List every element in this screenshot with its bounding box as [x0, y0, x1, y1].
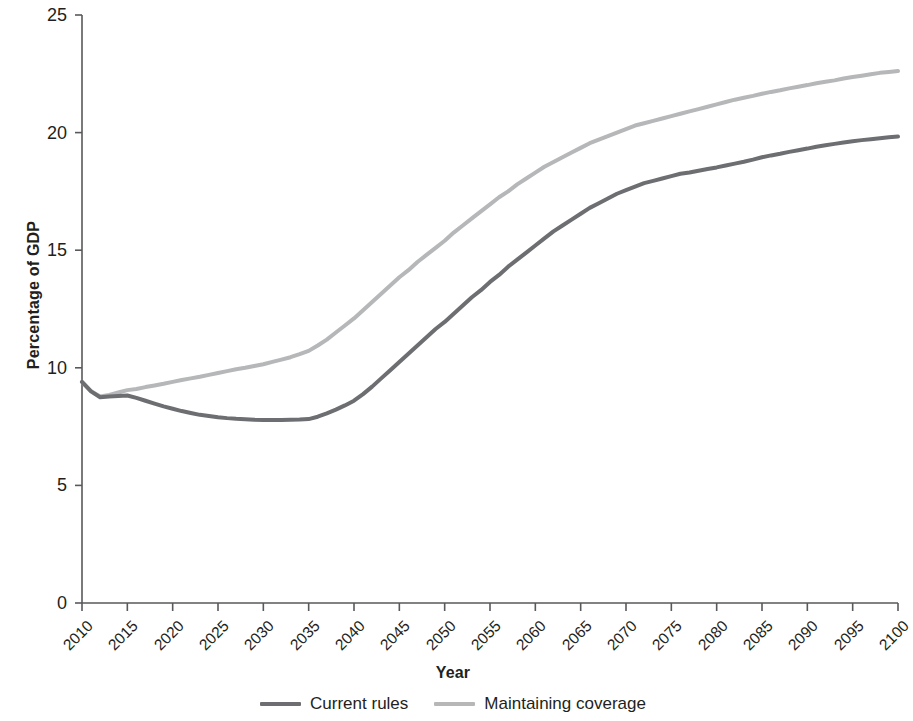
legend-item: Current rules	[260, 694, 408, 714]
legend-item: Maintaining coverage	[434, 694, 646, 714]
y-tick-label: 5	[15, 476, 67, 494]
x-axis-title: Year	[0, 664, 906, 682]
legend-line-swatch-icon	[260, 702, 301, 706]
y-tick-label: 25	[15, 6, 67, 24]
y-tick-label: 10	[15, 359, 67, 377]
series-line-maintaining-coverage	[82, 71, 898, 397]
legend-label: Current rules	[310, 694, 408, 714]
y-tick-label: 15	[15, 241, 67, 259]
legend-line-swatch-icon	[434, 702, 475, 706]
y-tick-label: 0	[15, 594, 67, 612]
y-tick-label: 20	[15, 124, 67, 142]
legend-label: Maintaining coverage	[484, 694, 646, 714]
chart-legend: Current rulesMaintaining coverage	[0, 694, 906, 714]
